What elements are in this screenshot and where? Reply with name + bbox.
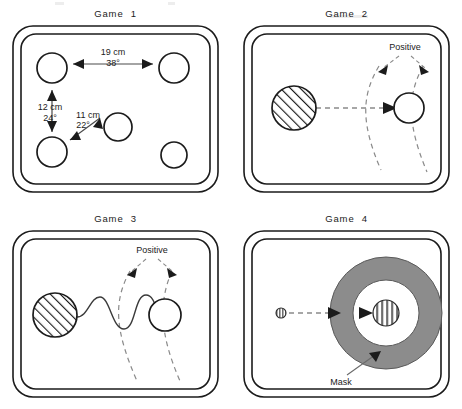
center-striped-disc bbox=[373, 300, 399, 326]
positive-pointer-right bbox=[158, 259, 172, 271]
measure-diag-angle: 22° bbox=[76, 120, 90, 130]
measure-left-angle: 24° bbox=[43, 113, 57, 123]
panel-game-1: Game 1 bbox=[0, 0, 231, 204]
target-open-circle bbox=[394, 93, 424, 123]
measure-left-distance: 12 cm bbox=[38, 102, 63, 112]
game-2-canvas: Positive bbox=[231, 0, 462, 204]
hatched-disc bbox=[33, 293, 77, 337]
game-3-canvas: Positive bbox=[0, 205, 231, 409]
mask-label: Mask bbox=[330, 377, 352, 387]
circle-top-left bbox=[37, 53, 67, 83]
positive-label: Positive bbox=[136, 245, 168, 255]
arrowhead-diag-far bbox=[70, 131, 81, 140]
hatched-disc bbox=[272, 86, 316, 130]
measure-top-distance: 19 cm bbox=[101, 47, 126, 57]
positive-pointer-left bbox=[132, 259, 146, 271]
arc-left bbox=[119, 271, 137, 381]
circle-bottom-left bbox=[37, 137, 67, 167]
panel-game-3: Game 3 bbox=[0, 205, 231, 409]
positive-pointer-right bbox=[411, 56, 425, 68]
circle-top-right bbox=[159, 53, 189, 83]
measure-top-angle: 38° bbox=[106, 58, 120, 68]
positive-arrowhead-left bbox=[378, 65, 388, 75]
arc-left bbox=[366, 66, 381, 170]
measure-diag-distance: 11 cm bbox=[76, 110, 100, 120]
circle-center bbox=[104, 113, 132, 141]
circle-bottom-right bbox=[161, 142, 187, 168]
game-4-canvas: Mask bbox=[231, 205, 462, 409]
target-open-circle bbox=[149, 299, 181, 331]
panel-game-2: Game 2 bbox=[231, 0, 462, 204]
positive-arrowhead-right bbox=[167, 268, 177, 278]
small-striped-disc bbox=[276, 308, 286, 318]
arrowhead-top-left bbox=[73, 59, 84, 69]
figure-four-games: Game 1 bbox=[0, 0, 462, 409]
positive-pointer-left bbox=[383, 56, 399, 68]
panel-game-4: Game 4 bbox=[231, 205, 462, 409]
arrowhead-top-right bbox=[142, 59, 153, 69]
arrowhead-left-up bbox=[47, 90, 57, 101]
game-1-canvas: 19 cm 38° 12 cm 24° 11 cm 22° bbox=[0, 0, 231, 204]
positive-label: Positive bbox=[389, 42, 421, 52]
